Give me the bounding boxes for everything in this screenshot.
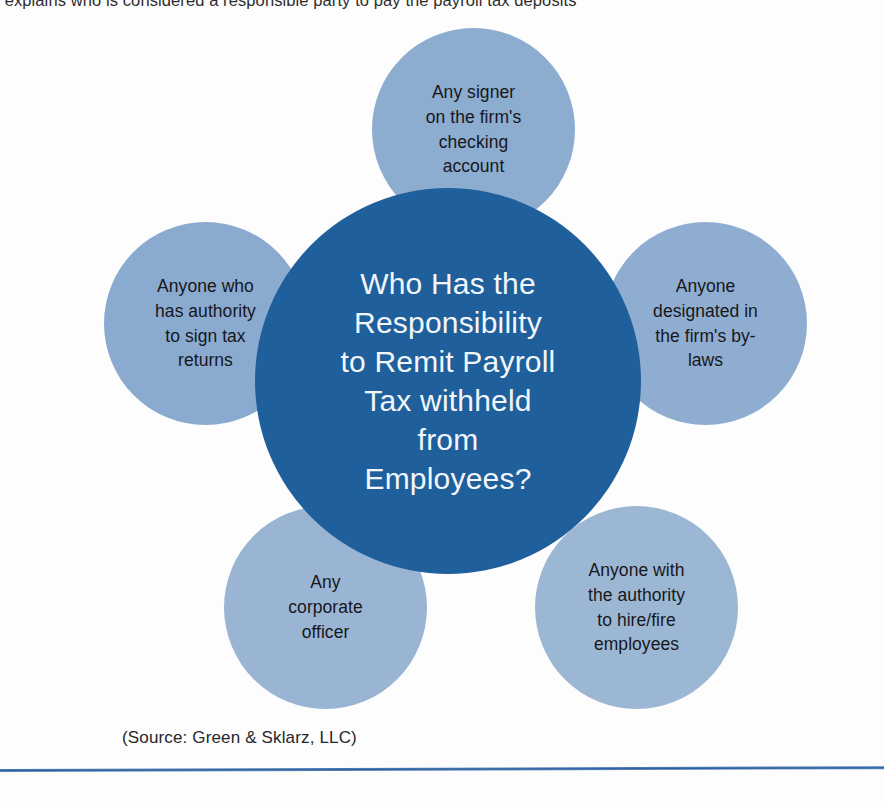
diagram-node-label: Anyone with the authority to hire/fire e… (568, 558, 705, 657)
diagram-center-label: Who Has the Responsibility to Remit Payr… (307, 264, 590, 498)
diagram-center-question: Who Has the Responsibility to Remit Payr… (255, 188, 641, 574)
hub-and-spoke-diagram: Any signer on the firm's checking accoun… (0, 0, 884, 760)
diagram-node-label: Anyone designated in the firm's by- laws (633, 274, 778, 373)
scanned-page: gram explains who is considered a respon… (0, 0, 884, 802)
diagram-node-label: Any signer on the firm's checking accoun… (406, 80, 541, 179)
diagram-node-hire-fire: Anyone with the authority to hire/fire e… (535, 506, 738, 709)
source-caption: (Source: Green & Sklarz, LLC) (122, 727, 357, 749)
diagram-node-label: Anyone who has authority to sign tax ret… (135, 274, 276, 373)
diagram-node-label: Any corporate officer (268, 570, 382, 645)
bottom-divider-rule (0, 766, 884, 772)
